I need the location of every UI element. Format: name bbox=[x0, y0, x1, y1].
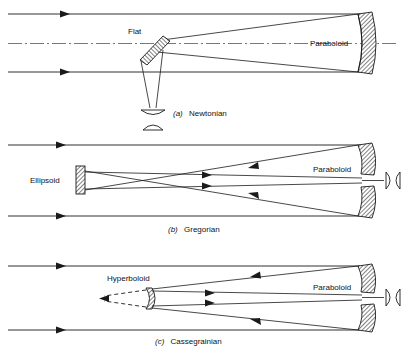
eyepiece-lens-left bbox=[386, 172, 390, 189]
telescope-figure: Flat Paraboloid (a) Newtonian bbox=[0, 0, 406, 351]
incoming-rays-cassegrainian bbox=[8, 263, 360, 334]
panel-gregorian: Ellipsoid Paraboloid (b) Gregorian bbox=[8, 142, 400, 234]
caption-newtonian: (a) Newtonian bbox=[173, 109, 227, 118]
figure-svg: Flat Paraboloid (a) Newtonian bbox=[0, 0, 406, 351]
caption-cassegrainian: (c) Cassegrainian bbox=[155, 337, 222, 346]
virtual-ray-lower bbox=[104, 301, 146, 307]
caption-name: Cassegrainian bbox=[171, 337, 222, 346]
label-paraboloid: Paraboloid bbox=[310, 39, 348, 48]
eyepiece-lens-left bbox=[386, 289, 390, 306]
ray-arrowhead bbox=[56, 327, 66, 334]
eyepiece-lens-upper bbox=[141, 110, 165, 115]
ray-arrowhead bbox=[250, 318, 261, 325]
label-paraboloid: Paraboloid bbox=[313, 283, 351, 292]
mirror-body-lower bbox=[358, 186, 376, 218]
virtual-focus-rays bbox=[99, 290, 146, 307]
ray-arrowhead bbox=[205, 300, 215, 307]
label-flat: Flat bbox=[128, 27, 142, 36]
exit-rays-gregorian bbox=[85, 172, 384, 190]
mirror-body bbox=[140, 36, 170, 65]
ray-arrowhead bbox=[60, 11, 70, 18]
caption-gregorian: (b) Gregorian bbox=[168, 225, 220, 234]
converging-rays-cassegrainian bbox=[152, 266, 358, 330]
caption-name: Newtonian bbox=[189, 109, 227, 118]
ray-arrowhead bbox=[202, 172, 212, 179]
ray-arrowhead bbox=[60, 69, 70, 76]
converging-ray-bottom bbox=[85, 171, 358, 216]
reflected-ray-left bbox=[141, 61, 150, 108]
eyepiece-gregorian bbox=[386, 172, 400, 189]
exit-ray-lower bbox=[85, 183, 362, 189]
mirror-body bbox=[358, 12, 376, 74]
label-hyperboloid: Hyperboloid bbox=[107, 274, 150, 283]
ray-arrowhead bbox=[202, 183, 212, 190]
ray-arrowhead bbox=[56, 263, 66, 270]
ray-arrowhead bbox=[56, 142, 66, 149]
caption-name: Gregorian bbox=[184, 225, 220, 234]
label-ellipsoid: Ellipsoid bbox=[30, 176, 60, 185]
virtual-ray-upper bbox=[104, 290, 146, 296]
incoming-rays-newtonian bbox=[8, 11, 360, 76]
converging-rays-gregorian bbox=[85, 145, 358, 216]
ray-arrowhead bbox=[250, 272, 261, 279]
converging-ray-top bbox=[162, 14, 358, 40]
caption-index: (a) bbox=[173, 109, 183, 118]
eyepiece-lens-lower bbox=[143, 125, 163, 130]
exit-ray-lower bbox=[152, 300, 362, 306]
virtual-ray-arrowhead bbox=[99, 295, 109, 302]
flat-secondary-mirror bbox=[140, 36, 170, 65]
label-paraboloid: Paraboloid bbox=[313, 165, 351, 174]
eyepiece-cassegrainian bbox=[386, 289, 400, 306]
caption-index: (c) bbox=[155, 337, 165, 346]
caption-index: (b) bbox=[168, 225, 178, 234]
eyepiece-lens-right bbox=[396, 289, 400, 306]
panel-newtonian: Flat Paraboloid (a) Newtonian bbox=[8, 11, 398, 130]
eyepiece-newtonian bbox=[141, 110, 165, 130]
mirror-body-lower bbox=[358, 304, 376, 332]
panel-cassegrainian: Hyperboloid Paraboloid (c) Cassegrainian bbox=[8, 263, 400, 346]
mirror-body bbox=[76, 166, 85, 194]
converging-ray-bottom bbox=[157, 52, 358, 72]
eyepiece-lens-right bbox=[396, 172, 400, 189]
exit-rays-cassegrainian bbox=[152, 290, 384, 307]
ellipsoid-secondary-mirror bbox=[76, 166, 85, 194]
mirror-body-upper bbox=[358, 143, 376, 175]
ray-arrowhead bbox=[56, 213, 66, 220]
mirror-body-upper bbox=[358, 264, 376, 293]
paraboloid-primary-mirror bbox=[358, 12, 376, 74]
reflected-ray-right bbox=[156, 50, 163, 108]
ray-arrowhead bbox=[205, 290, 215, 297]
paraboloid-primary-mirror bbox=[358, 264, 376, 332]
